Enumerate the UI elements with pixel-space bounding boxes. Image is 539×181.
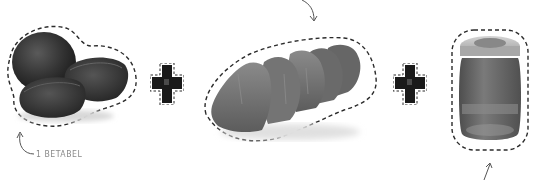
meat-ingredient [198,34,382,148]
beet-label: 1 BETABEL [36,148,82,159]
plus-icon [393,63,427,105]
plus-operator-1 [150,63,184,105]
arrow-up-icon [480,160,496,181]
beets-ingredient [0,20,140,132]
jar-ingredient [448,26,532,154]
meat-chunks-icon [198,34,382,148]
jar-icon [448,26,532,154]
curved-arrow-down-icon [300,0,320,24]
plus-icon [150,63,184,105]
beetroot-icon [0,20,140,132]
plus-operator-2 [393,63,427,105]
curved-arrow-up-icon [14,128,38,158]
